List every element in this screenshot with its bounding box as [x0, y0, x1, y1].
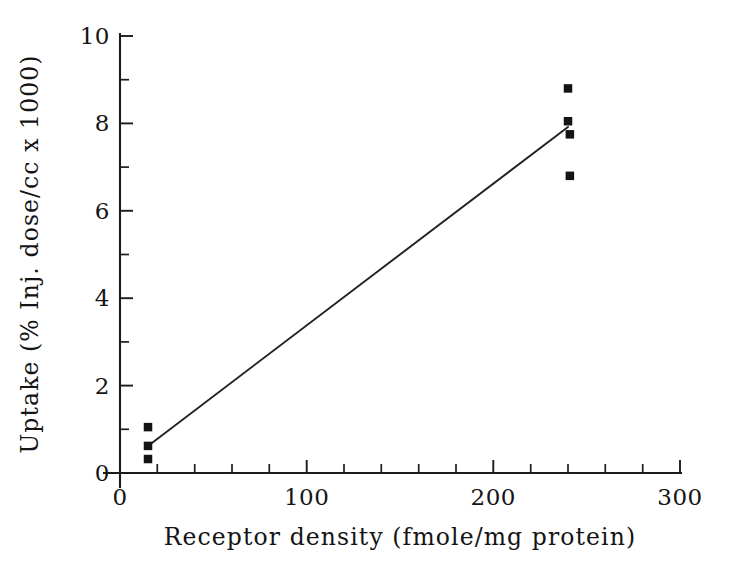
x-tick-label: 300 [657, 484, 702, 510]
y-tick-label: 2 [95, 373, 110, 399]
data-point-marker [144, 442, 153, 451]
y-tick-labels: 10 8 6 4 2 0 [80, 23, 110, 486]
data-points-group [144, 84, 574, 463]
x-axis-minor-ticks [157, 464, 642, 473]
y-axis-title: Uptake (% Inj. dose/cc x 1000) [16, 54, 44, 453]
y-tick-label: 6 [95, 198, 110, 224]
x-tick-label: 200 [471, 484, 516, 510]
x-axis-title: Receptor density (fmole/mg protein) [164, 523, 636, 551]
y-tick-label: 0 [95, 460, 110, 486]
data-point-marker [566, 172, 575, 181]
x-tick-label: 0 [112, 484, 127, 510]
regression-line [148, 127, 568, 446]
x-tick-label: 100 [284, 484, 329, 510]
data-point-marker [566, 130, 575, 139]
y-tick-label: 10 [80, 23, 110, 49]
scatter-plot: 10 8 6 4 2 0 0 100 200 300 Receptor dens… [0, 0, 755, 574]
data-point-marker [564, 84, 573, 93]
y-tick-label: 4 [95, 285, 110, 311]
x-axis-major-ticks [120, 460, 680, 473]
chart-figure: 10 8 6 4 2 0 0 100 200 300 Receptor dens… [0, 0, 755, 574]
data-point-marker [144, 455, 153, 464]
data-point-marker [564, 117, 573, 126]
y-axis-minor-ticks [120, 80, 129, 430]
x-tick-labels: 0 100 200 300 [112, 484, 702, 510]
y-tick-label: 8 [95, 110, 110, 136]
data-point-marker [144, 423, 153, 432]
